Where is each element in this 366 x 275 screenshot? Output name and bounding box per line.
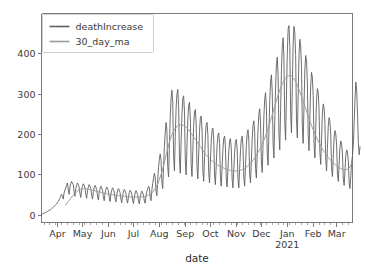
x-tick-label: Apr — [49, 228, 66, 239]
legend-label-deathIncrease: deathIncrease — [76, 21, 144, 32]
x-tick-year-label: 2021 — [275, 239, 299, 250]
x-tick-label: Mar — [328, 228, 346, 239]
x-tick-label: May — [73, 228, 93, 239]
y-tick-label: 300 — [17, 89, 35, 100]
x-tick-label: Oct — [202, 228, 219, 239]
x-tick-label: Jun — [100, 228, 116, 239]
x-tick-label: Nov — [227, 228, 246, 239]
x-tick-label: Sep — [176, 228, 194, 239]
series-line-deathIncrease — [42, 26, 361, 215]
y-tick-label: 100 — [17, 169, 35, 180]
x-tick-label: Dec — [252, 228, 270, 239]
x-tick-label: Feb — [305, 228, 322, 239]
x-tick-label: Jan — [279, 228, 295, 239]
x-tick-label: Aug — [150, 228, 169, 239]
matplotlib-figure: 0100200300400AprMayJunJulAugSepOctNovDec… — [0, 0, 366, 275]
x-axis-title: date — [185, 252, 209, 264]
x-tick-label: Jul — [127, 228, 139, 239]
y-tick-label: 200 — [17, 129, 35, 140]
y-tick-label: 0 — [29, 210, 35, 221]
axes-area: 0100200300400AprMayJunJulAugSepOctNovDec… — [17, 14, 360, 265]
legend-label-30_day_ma: 30_day_ma — [76, 36, 130, 47]
y-tick-label: 400 — [17, 48, 35, 59]
chart-canvas: 0100200300400AprMayJunJulAugSepOctNovDec… — [0, 0, 366, 275]
